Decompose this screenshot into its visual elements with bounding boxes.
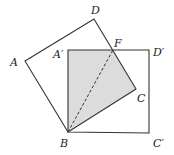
label-D: D [90,4,100,17]
label-A-prime: A′ [52,48,64,61]
label-A: A [9,56,18,69]
label-D-prime: D′ [152,46,165,59]
label-B: B [59,137,68,150]
shaded-overlap-region [68,50,136,132]
label-C: C [137,92,146,105]
label-C-prime: C′ [153,137,164,150]
label-F: F [113,37,122,50]
geometry-diagram: A D A′ F D′ C B C′ [0,0,174,155]
